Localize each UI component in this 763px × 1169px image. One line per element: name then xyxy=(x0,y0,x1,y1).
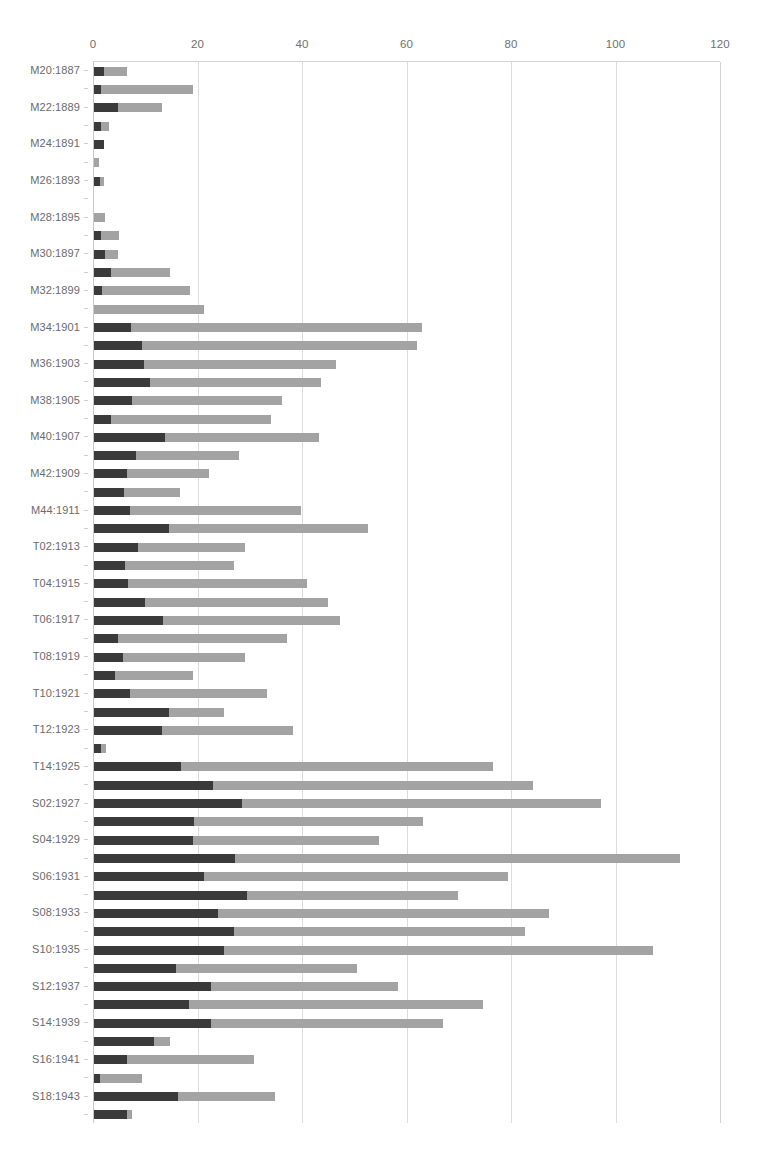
x-tick-label: 0 xyxy=(90,38,97,50)
bar-segment-dark xyxy=(94,506,130,515)
bar-row xyxy=(94,946,721,955)
bar-row xyxy=(94,67,721,76)
bar-segment-light xyxy=(125,561,234,570)
bar-segment-light xyxy=(218,909,548,918)
bar-segment-dark xyxy=(94,85,101,94)
bar-segment-light xyxy=(235,854,680,863)
bar-row xyxy=(94,653,721,662)
x-tick-label: 40 xyxy=(296,38,309,50)
bar-segment-dark xyxy=(94,634,118,643)
bar-segment-dark xyxy=(94,561,125,570)
bar-row xyxy=(94,854,721,863)
y-tick-mark xyxy=(84,381,88,382)
bar-row xyxy=(94,982,721,991)
bar-row xyxy=(94,1019,721,1028)
y-tick-label: T02:1913 xyxy=(33,540,80,552)
y-tick-mark xyxy=(84,473,88,474)
y-tick-label: T12:1923 xyxy=(33,723,80,735)
bar-row xyxy=(94,231,721,240)
y-tick-mark xyxy=(84,766,88,767)
x-tick-label: 100 xyxy=(606,38,626,50)
y-tick-label: M20:1887 xyxy=(30,64,80,76)
bar-segment-light xyxy=(118,634,287,643)
bar-segment-light xyxy=(94,213,105,222)
bar-row xyxy=(94,378,721,387)
bar-segment-light xyxy=(211,982,398,991)
y-tick-label: M28:1895 xyxy=(30,211,80,223)
y-tick-mark xyxy=(84,290,88,291)
stacked-bar-chart: 020406080100120 M20:1887M22:1889M24:1891… xyxy=(0,0,763,1169)
y-tick-mark xyxy=(84,88,88,89)
bar-segment-dark xyxy=(94,836,193,845)
bar-segment-dark xyxy=(94,616,163,625)
bar-row xyxy=(94,1074,721,1083)
y-tick-label: M44:1911 xyxy=(31,504,80,516)
bar-row xyxy=(94,1037,721,1046)
bar-row xyxy=(94,561,721,570)
y-tick-label: M24:1891 xyxy=(30,137,80,149)
bar-segment-dark xyxy=(94,250,105,259)
y-tick-mark xyxy=(84,1114,88,1115)
bar-segment-light xyxy=(193,836,379,845)
y-tick-mark xyxy=(84,418,88,419)
bar-row xyxy=(94,543,721,552)
bar-segment-dark xyxy=(94,378,150,387)
y-tick-mark xyxy=(84,784,88,785)
bar-row xyxy=(94,616,721,625)
y-tick-mark xyxy=(84,894,88,895)
bar-segment-dark xyxy=(94,872,204,881)
bar-row xyxy=(94,195,721,204)
bar-segment-light xyxy=(102,286,190,295)
bar-segment-light xyxy=(100,177,104,186)
y-tick-label: T06:1917 xyxy=(33,613,80,625)
bar-segment-light xyxy=(169,708,223,717)
y-axis-tick-labels: M20:1887M22:1889M24:1891M26:1893M28:1895… xyxy=(0,61,88,1123)
bar-row xyxy=(94,451,721,460)
bar-row xyxy=(94,524,721,533)
bar-segment-light xyxy=(163,616,340,625)
bar-segment-dark xyxy=(94,415,111,424)
bar-segment-light xyxy=(213,781,534,790)
bar-segment-light xyxy=(234,927,525,936)
bar-row xyxy=(94,103,721,112)
y-tick-label: S02:1927 xyxy=(32,797,80,809)
y-tick-mark xyxy=(84,308,88,309)
bar-row xyxy=(94,762,721,771)
y-tick-mark xyxy=(84,162,88,163)
bar-segment-light xyxy=(145,598,328,607)
y-tick-label: S16:1941 xyxy=(32,1053,80,1065)
bar-segment-light xyxy=(178,1092,275,1101)
bar-segment-dark xyxy=(94,231,101,240)
bar-segment-dark xyxy=(94,524,169,533)
y-tick-mark xyxy=(84,400,88,401)
y-tick-mark xyxy=(84,674,88,675)
x-tick-label: 60 xyxy=(400,38,413,50)
y-tick-mark xyxy=(84,949,88,950)
bar-row xyxy=(94,927,721,936)
bar-segment-light xyxy=(162,726,293,735)
bar-segment-dark xyxy=(94,1055,127,1064)
bar-segment-dark xyxy=(94,1019,211,1028)
y-tick-mark xyxy=(84,729,88,730)
bar-row xyxy=(94,506,721,515)
bar-row xyxy=(94,671,721,680)
y-tick-mark xyxy=(84,198,88,199)
plot-area xyxy=(93,61,720,1123)
bar-row xyxy=(94,268,721,277)
bar-segment-light xyxy=(111,268,170,277)
bar-row xyxy=(94,177,721,186)
y-tick-mark xyxy=(84,931,88,932)
bar-segment-light xyxy=(154,1037,171,1046)
x-tick-label: 120 xyxy=(710,38,730,50)
bar-row xyxy=(94,799,721,808)
bar-row xyxy=(94,1000,721,1009)
bar-segment-light xyxy=(94,305,204,314)
bar-segment-dark xyxy=(94,854,235,863)
y-tick-label: M38:1905 xyxy=(30,394,80,406)
bar-row xyxy=(94,488,721,497)
bar-segment-light xyxy=(142,341,417,350)
bar-segment-light xyxy=(204,872,508,881)
bar-segment-dark xyxy=(94,598,145,607)
bar-row xyxy=(94,634,721,643)
bar-segment-dark xyxy=(94,1092,178,1101)
